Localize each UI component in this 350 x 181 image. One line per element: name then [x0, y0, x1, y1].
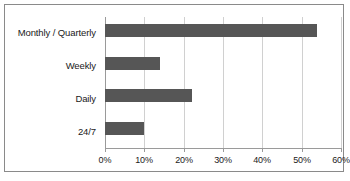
tickmark-0pct: [105, 148, 106, 152]
bar: [105, 122, 144, 135]
tickmark-50pct: [302, 148, 303, 152]
tickmark-30pct: [223, 148, 224, 152]
category-label: Daily: [75, 93, 96, 104]
tickmark-20pct: [184, 148, 185, 152]
x-tick-label: 50%: [293, 155, 311, 165]
tickmark-10pct: [144, 148, 145, 152]
bar: [105, 89, 192, 102]
x-tick-label: 30%: [214, 155, 232, 165]
category-label: 24/7: [78, 126, 96, 137]
x-tick-label: 60%: [332, 155, 350, 165]
tickmark-60pct: [341, 148, 342, 152]
x-tick-label: 10%: [135, 155, 153, 165]
bar: [105, 57, 160, 70]
category-label: Monthly / Quarterly: [18, 27, 96, 38]
x-tick-label: 0%: [99, 155, 112, 165]
chart-frame: 0%10%20%30%40%50%60% Monthly / Quarterly…: [4, 4, 344, 172]
x-tick-label: 40%: [253, 155, 271, 165]
x-tick-label: 20%: [175, 155, 193, 165]
gridline-60pct: [341, 17, 342, 148]
tickmark-40pct: [262, 148, 263, 152]
category-label: Weekly: [66, 60, 96, 71]
bar: [105, 24, 317, 37]
